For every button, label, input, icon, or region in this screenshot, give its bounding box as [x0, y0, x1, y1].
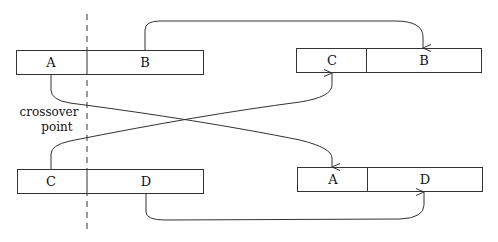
segment-label: C — [46, 174, 56, 189]
segment-label: A — [45, 55, 56, 70]
child-2-chromosome: A D — [298, 168, 483, 192]
crossover-label-2: point — [41, 120, 72, 134]
arrow-d-to-child-2 — [146, 192, 424, 220]
crossover-label: crossover — [20, 105, 79, 119]
segment-label: D — [420, 172, 430, 187]
arrow-a-to-child-2 — [51, 75, 332, 167]
arrow-b-to-child-1 — [145, 21, 423, 50]
crossover-diagram: A B C D C B A D crossover point — [0, 0, 498, 242]
child-1-chromosome: C B — [297, 49, 482, 73]
segment-label: D — [141, 174, 151, 189]
parent-1-chromosome: A B — [17, 51, 204, 75]
segment-label: C — [327, 53, 337, 68]
segment-label: A — [327, 172, 338, 187]
parent-2-chromosome: C D — [18, 170, 204, 194]
segment-label: B — [419, 53, 429, 68]
segment-label: B — [140, 55, 150, 70]
